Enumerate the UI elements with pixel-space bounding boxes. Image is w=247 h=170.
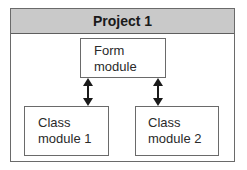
- bidirectional-arrow-icon: [82, 78, 94, 106]
- project-title: Project 1: [11, 9, 234, 34]
- class-module-1-label: Class module 1: [38, 115, 91, 147]
- class-module-2-box: Class module 2: [135, 106, 219, 156]
- bidirectional-arrow-icon: [152, 78, 164, 106]
- class-module-1-box: Class module 1: [24, 106, 109, 156]
- form-module-box: Form module: [80, 38, 166, 78]
- form-module-label: Form module: [94, 43, 137, 75]
- class-module-2-label: Class module 2: [148, 115, 201, 147]
